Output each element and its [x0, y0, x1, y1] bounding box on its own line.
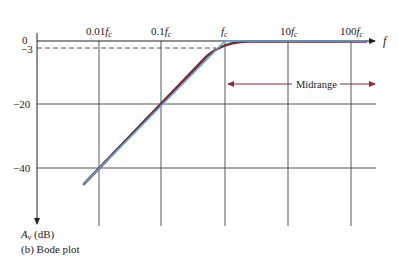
x-tick-0.1fc: 0.1fc [151, 25, 172, 39]
y-tick-minus20: −20 [13, 98, 31, 110]
x-axis-label: f [383, 34, 388, 48]
y-tick-minus40: −40 [13, 162, 31, 174]
x-tick-100fc: 100fc [340, 25, 364, 39]
x-tick-10fc: 10fc [280, 25, 298, 39]
y-tick-minus3: −3 [21, 43, 33, 55]
x-tick-fc: fc [221, 25, 228, 39]
y-axis-label: Av (dB) [20, 228, 55, 242]
midrange-label: Midrange [296, 79, 337, 90]
horizontal-gridlines [37, 104, 376, 168]
x-tick-0.01fc: 0.01fc [86, 25, 112, 39]
bode-plot: Midrange 0 −3 −20 −40 0.01fc 0.1fc fc 10… [0, 0, 398, 258]
vertical-gridlines [99, 41, 351, 226]
figure-caption: (b) Bode plot [21, 243, 80, 256]
